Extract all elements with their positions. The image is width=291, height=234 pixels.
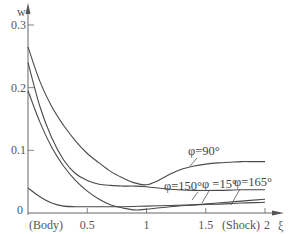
label-phi-15: φ =15° — [202, 177, 237, 191]
leader-phi-15 — [202, 191, 209, 203]
body-annotation: (Body) — [29, 218, 63, 232]
label-phi-165: φ=165° — [234, 175, 272, 189]
y-tick-label: 0.3 — [11, 18, 26, 32]
x-axis-label: ξ — [278, 219, 284, 233]
line-chart: w ξ 00.10.20.3 0.511.52 (Body) (Shock) φ… — [0, 0, 291, 234]
y-axis-arrow-icon — [26, 3, 31, 14]
x-tick-label: 1 — [144, 218, 150, 232]
series-line — [28, 91, 265, 210]
leader-phi-90 — [190, 158, 197, 166]
y-tick-label: 0.1 — [11, 143, 26, 157]
y-axis-label: w — [17, 5, 26, 19]
x-axis-arrow-icon — [272, 211, 284, 216]
label-phi-90: φ=90° — [188, 144, 220, 158]
x-tick-label: 1.5 — [198, 218, 213, 232]
x-tick-label: 0.5 — [80, 218, 95, 232]
leader-phi-150 — [192, 192, 198, 200]
label-phi-150: φ=150° — [164, 179, 202, 193]
y-tick-label: 0 — [17, 203, 23, 217]
y-tick-label: 0.2 — [11, 81, 26, 95]
series-line — [28, 47, 265, 185]
x-tick-label: 2 — [264, 218, 270, 232]
shock-annotation: (Shock) — [222, 218, 260, 232]
y-ticks: 00.10.20.3 — [11, 18, 34, 217]
series-line — [28, 63, 265, 191]
